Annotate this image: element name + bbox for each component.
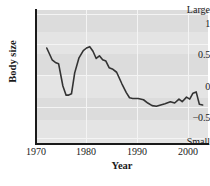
y-axis-top-label: Large [176,5,210,15]
y-axis-title: Body size [7,25,18,99]
x-axis-title: Year [36,160,208,171]
chart-figure: Large 1 0.5 0 −0.5 Small 1970 1980 1990 … [0,0,210,186]
x-tick-label-1980: 1980 [66,146,106,157]
y-axis-line [35,9,37,145]
x-tick-label-2000: 2000 [168,146,208,157]
y-tick-label-0.5: 0.5 [176,50,210,60]
x-tick-label-1970: 1970 [16,146,56,157]
y-tick-label-1: 1 [176,19,210,29]
y-tick-label-neg0.5: −0.5 [176,113,210,123]
body-size-line-series [36,10,208,143]
y-tick-label-0: 0 [176,82,210,92]
plot-area [36,10,208,143]
x-tick-label-1990: 1990 [117,146,157,157]
